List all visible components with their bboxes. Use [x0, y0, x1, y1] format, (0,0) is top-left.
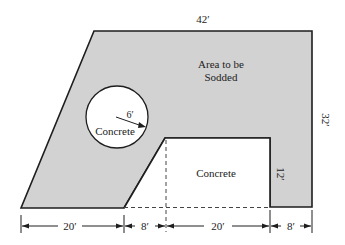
sod-area-label-line1: Area to be	[198, 58, 244, 70]
rect-concrete-label: Concrete	[196, 167, 236, 179]
sod-area-label-line2: Sodded	[205, 71, 239, 83]
sod-area-diagram: Area to be Sodded 6′ Concrete Concrete 4…	[0, 0, 345, 245]
bottom-dim-label-2: 8′	[141, 220, 149, 232]
notch-height-label: 12′	[275, 167, 287, 180]
radius-label: 6′	[126, 109, 133, 120]
right-height-label: 32′	[320, 113, 332, 126]
circle-concrete-label: Concrete	[95, 125, 135, 137]
bottom-dim-label-4: 8′	[287, 220, 295, 232]
top-width-label: 42′	[196, 13, 209, 25]
bottom-dim-label-1: 20′	[63, 220, 76, 232]
bottom-dim-label-3: 20′	[211, 220, 224, 232]
